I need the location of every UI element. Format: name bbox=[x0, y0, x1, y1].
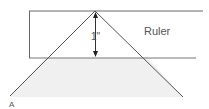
triangle-fill bbox=[10, 58, 183, 97]
ruler-label: Ruler bbox=[144, 25, 170, 37]
dimension-label: 1" bbox=[91, 31, 100, 42]
point-a-label: A bbox=[9, 100, 14, 109]
diagram-graphics bbox=[0, 0, 209, 109]
ruler-triangle-diagram: Ruler 1" A bbox=[0, 0, 209, 109]
arrow-down-head-icon bbox=[93, 51, 98, 57]
